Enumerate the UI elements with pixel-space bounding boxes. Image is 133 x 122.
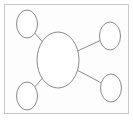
central-node [37, 32, 79, 88]
node-top-left [17, 10, 38, 38]
edge-center-bottom-right [78, 70, 102, 83]
edge-center-top-left [35, 33, 42, 41]
node-top-right [100, 22, 121, 50]
edge-center-bottom-left [35, 78, 42, 86]
mind-map-diagram [0, 0, 133, 122]
node-bottom-right [101, 74, 122, 102]
node-bottom-left [17, 82, 38, 110]
edge-center-top-right [78, 41, 100, 51]
nodes-group [17, 10, 122, 110]
